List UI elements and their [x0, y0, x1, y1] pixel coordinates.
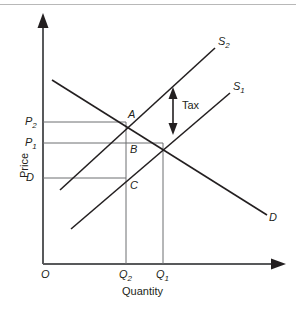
y-tick-p2: P2 — [25, 116, 37, 130]
x-axis-arrowhead-icon — [271, 259, 286, 270]
x-tick-q1-sub: 1 — [165, 274, 169, 283]
y-tick-d: D — [26, 172, 34, 183]
curves-group — [52, 48, 267, 229]
reference-lines-group — [43, 122, 163, 264]
axis-group — [38, 13, 287, 270]
y-axis-arrowhead-icon — [38, 13, 49, 28]
curve-label-s2-sub: 2 — [225, 41, 229, 50]
x-tick-q1-base: Q — [156, 268, 165, 280]
y-tick-d-base: D — [26, 171, 34, 183]
tax-double-arrow-icon — [169, 87, 178, 135]
diagram-canvas — [0, 0, 296, 311]
curve-label-s2: S2 — [218, 36, 230, 50]
demand-curve — [52, 80, 267, 215]
y-tick-p2-sub: 2 — [32, 121, 36, 130]
x-axis-title: Quantity — [122, 286, 163, 297]
supply-demand-tax-figure: Price Quantity O P2 P1 D Q2 Q1 S2 S1 D A… — [0, 0, 296, 311]
y-tick-p1: P1 — [25, 137, 37, 151]
curve-label-d: D — [269, 212, 277, 223]
x-tick-q2-base: Q — [119, 268, 128, 280]
curve-label-s1: S1 — [233, 81, 245, 95]
x-tick-q2-sub: 2 — [128, 274, 132, 283]
curve-label-s1-sub: 1 — [240, 86, 244, 95]
point-label-c: C — [130, 180, 138, 191]
point-label-b: B — [130, 144, 137, 155]
origin-label: O — [41, 269, 50, 280]
curve-label-d-base: D — [269, 211, 277, 223]
x-tick-q2: Q2 — [119, 269, 132, 283]
point-label-a: A — [128, 109, 135, 120]
tax-annotation-label: Tax — [182, 100, 199, 111]
y-tick-p1-sub: 1 — [32, 142, 36, 151]
supply-curve-s2 — [60, 48, 215, 190]
supply-curve-s1 — [71, 93, 230, 229]
x-tick-q1: Q1 — [156, 269, 169, 283]
